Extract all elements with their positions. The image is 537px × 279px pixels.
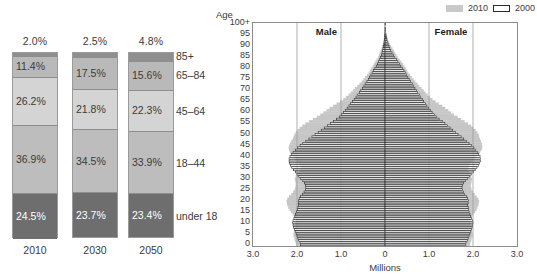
y-tick-15: 15 <box>212 206 250 215</box>
pyramid-y-axis: 100+959085807570656055504540353025201510… <box>210 22 250 247</box>
y-tick-10: 10 <box>212 217 250 226</box>
x-tick-3: 0 <box>382 249 387 259</box>
x-tick-4: 1.0 <box>423 249 436 259</box>
top-segment-pct-2010: 2.0% <box>6 35 64 47</box>
x-tick-0: 3.0 <box>247 249 260 259</box>
segment-2030-18-44: 34.5% <box>73 130 117 193</box>
top-segment-pct-2030: 2.5% <box>66 35 124 47</box>
y-tick-95: 95 <box>212 29 250 38</box>
y-tick-60: 60 <box>212 106 250 115</box>
x-tick-2: 1.0 <box>335 249 348 259</box>
y-tick-70: 70 <box>212 84 250 93</box>
stacked-bar-chart: 2.0%11.4%26.2%36.9%24.5%20102.5%17.5%21.… <box>0 0 205 279</box>
segment-pct-label: 34.5% <box>73 156 106 167</box>
segment-pct-label: 24.5% <box>13 211 46 222</box>
y-tick-35: 35 <box>212 162 250 171</box>
female-label: Female <box>435 26 468 37</box>
top-segment-pct-2050: 4.8% <box>122 35 180 47</box>
x-tick-5: 2.0 <box>467 249 480 259</box>
bar-column-2030: 17.5%21.8%34.5%23.7% <box>72 52 118 238</box>
bar-year-label-2010: 2010 <box>6 244 64 256</box>
y-tick-90: 90 <box>212 40 250 49</box>
segment-2030-under-18: 23.7% <box>73 193 117 237</box>
bar-column-2050: 15.6%22.3%33.9%23.4% <box>128 52 174 238</box>
legend-label-2000: 2000 <box>515 3 535 13</box>
population-pyramid-chart: Age 2010 2000 100+9590858075706560555045… <box>210 0 537 279</box>
bar-year-label-2050: 2050 <box>122 244 180 256</box>
y-tick-75: 75 <box>212 73 250 82</box>
y-tick-80: 80 <box>212 62 250 71</box>
segment-2010-65-84: 11.4% <box>13 57 57 78</box>
segment-2030-65-84: 17.5% <box>73 58 117 90</box>
y-tick-20: 20 <box>212 195 250 204</box>
bar-column-2010: 11.4%26.2%36.9%24.5% <box>12 52 58 238</box>
segment-pct-label: 23.4% <box>129 210 162 221</box>
segment-2010-18-44: 36.9% <box>13 126 57 194</box>
pyramid-legend: 2010 2000 <box>446 3 535 13</box>
legend-swatch-2010 <box>446 5 463 12</box>
x-tick-1: 2.0 <box>291 249 304 259</box>
y-tick-65: 65 <box>212 95 250 104</box>
pyramid-plot-area <box>252 22 518 247</box>
segment-pct-label: 15.6% <box>129 70 162 81</box>
legend-swatch-2000 <box>493 5 510 12</box>
x-axis-caption: Millions <box>252 262 518 273</box>
age-group-label-85-: 85+ <box>176 50 194 62</box>
segment-2050-45-64: 22.3% <box>129 91 173 132</box>
bar-year-label-2030: 2030 <box>66 244 124 256</box>
y-tick-40: 40 <box>212 151 250 160</box>
pyramid-bars <box>253 23 517 246</box>
y-tick-55: 55 <box>212 117 250 126</box>
segment-pct-label: 11.4% <box>13 61 45 72</box>
y-tick-45: 45 <box>212 140 250 149</box>
age-group-label-18-44: 18–44 <box>176 157 205 169</box>
y-tick-100plus: 100+ <box>212 18 250 27</box>
segment-pct-label: 23.7% <box>73 210 106 221</box>
segment-2050-under-18: 23.4% <box>129 194 173 237</box>
age-group-label-45-64: 45–64 <box>176 105 205 117</box>
segment-2010-45-64: 26.2% <box>13 78 57 126</box>
segment-pct-label: 21.8% <box>73 104 106 115</box>
y-tick-0: 0 <box>212 239 250 248</box>
x-tick-6: 3.0 <box>511 249 524 259</box>
y-tick-50: 50 <box>212 129 250 138</box>
segment-2030-45-64: 21.8% <box>73 90 117 130</box>
male-label: Male <box>316 26 337 37</box>
segment-pct-label: 22.3% <box>129 105 162 116</box>
segment-pct-label: 36.9% <box>13 154 46 165</box>
segment-pct-label: 17.5% <box>73 68 106 79</box>
legend-label-2010: 2010 <box>468 3 488 13</box>
figure-root: 2.0%11.4%26.2%36.9%24.5%20102.5%17.5%21.… <box>0 0 537 279</box>
segment-2050-85- <box>129 53 173 62</box>
y-tick-30: 30 <box>212 173 250 182</box>
segment-pct-label: 33.9% <box>129 157 162 168</box>
segment-pct-label: 26.2% <box>13 96 46 107</box>
y-tick-5: 5 <box>212 228 250 237</box>
age-group-label-65-84: 65–84 <box>176 69 205 81</box>
segment-2050-65-84: 15.6% <box>129 62 173 91</box>
segment-2010-under-18: 24.5% <box>13 194 57 239</box>
y-tick-25: 25 <box>212 184 250 193</box>
y-tick-85: 85 <box>212 51 250 60</box>
segment-2050-18-44: 33.9% <box>129 132 173 194</box>
